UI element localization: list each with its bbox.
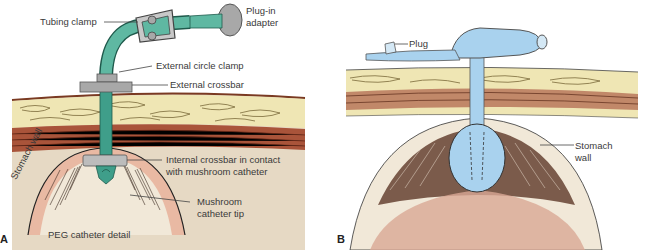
- balloon-button-illustration: [330, 0, 646, 250]
- caption-peg-catheter-detail: PEG catheter detail: [48, 229, 130, 240]
- label-plug: Plug: [409, 38, 428, 49]
- label-tubing-clamp: Tubing clamp: [40, 16, 97, 27]
- panel-letter-a: A: [0, 233, 8, 245]
- panel-b-balloon-button: Plug Stomach wall B: [330, 0, 646, 250]
- label-plug-in-adapter-line1: Plug-in: [246, 5, 276, 16]
- panel-letter-b: B: [337, 233, 345, 245]
- label-mushroom-tip-line2: catheter tip: [197, 208, 244, 219]
- label-plug-in-adapter-line2: adapter: [246, 17, 278, 28]
- panel-a-peg-catheter: Tubing clamp Plug-in adapter External ci…: [0, 0, 330, 250]
- label-stomach-wall-b-line1: Stomach: [575, 140, 613, 151]
- label-stomach-wall-b-line2: wall: [575, 152, 591, 163]
- label-internal-crossbar-line1: Internal crossbar in contact: [166, 154, 280, 165]
- label-external-circle-clamp: External circle clamp: [156, 60, 244, 71]
- label-internal-crossbar-line2: with mushroom catheter: [166, 166, 267, 177]
- label-mushroom-tip-line1: Mushroom: [197, 196, 242, 207]
- label-external-crossbar: External crossbar: [170, 79, 244, 90]
- peg-catheter-illustration: [0, 0, 330, 250]
